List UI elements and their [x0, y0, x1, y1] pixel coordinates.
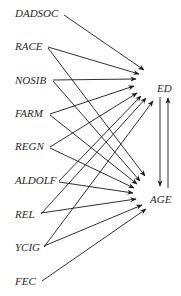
node-rel: REL — [15, 208, 35, 220]
node-regn: REGN — [15, 140, 44, 152]
node-ycig: YCIG — [15, 241, 40, 253]
edge-race-ed — [48, 47, 139, 74]
path-diagram: DADSOC RACE NOSIB FARM REGN ALDOLF REL Y… — [0, 0, 181, 296]
edge-race-age — [48, 48, 145, 176]
edge-farm-age — [50, 115, 137, 184]
node-ed: ED — [157, 82, 172, 94]
edge-aldolf-age — [59, 182, 133, 193]
node-fec: FEC — [15, 275, 36, 287]
edge-regn-ed — [50, 93, 137, 147]
node-nosib: NOSIB — [15, 74, 46, 86]
node-age: AGE — [150, 193, 171, 205]
edge-nosib-age — [53, 81, 140, 181]
edge-rel-age — [41, 199, 136, 213]
node-farm: FARM — [15, 107, 43, 119]
node-race: RACE — [15, 40, 43, 52]
node-aldolf: ALDOLF — [15, 174, 57, 186]
edge-fec-age — [42, 209, 146, 281]
edge-ycig-age — [44, 205, 142, 246]
node-dadsoc: DADSOC — [15, 7, 58, 19]
edge-dadsoc-ed — [64, 15, 144, 70]
edge-farm-ed — [50, 86, 134, 114]
edge-nosib-ed — [53, 79, 136, 80]
